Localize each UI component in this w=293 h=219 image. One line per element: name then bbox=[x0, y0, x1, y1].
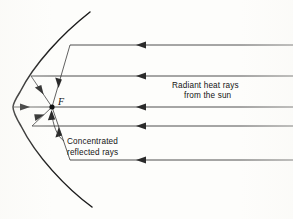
incoming-rays-label-line1: Radiant heat rays bbox=[172, 81, 239, 90]
figure-root: Radiant heat rays from the sun Concentra… bbox=[0, 0, 293, 219]
reflected-ray-2-arrowhead bbox=[35, 85, 44, 95]
reflected-label-leader-arrowhead bbox=[48, 110, 55, 120]
incoming-ray-5-arrowhead bbox=[136, 156, 146, 163]
incoming-rays-label-line2: from the sun bbox=[184, 91, 232, 100]
focus-point-dot bbox=[49, 104, 54, 109]
reflected-rays-label-line1: Concentrated bbox=[67, 137, 118, 146]
reflected-rays-label-line2: reflected rays bbox=[67, 148, 118, 157]
incoming-ray-1-arrowhead bbox=[136, 41, 146, 48]
reflected-ray-4-arrowhead bbox=[34, 114, 44, 121]
reflected-ray-3-arrowhead bbox=[20, 103, 30, 110]
focus-point-label: F bbox=[57, 96, 65, 107]
ray-diagram-canvas: Radiant heat rays from the sun Concentra… bbox=[0, 0, 293, 219]
incoming-ray-2-arrowhead bbox=[136, 72, 146, 79]
incoming-ray-3-arrowhead bbox=[136, 103, 146, 110]
incoming-ray-4-arrowhead bbox=[136, 122, 146, 129]
reflected-ray-1-arrowhead bbox=[55, 78, 62, 88]
